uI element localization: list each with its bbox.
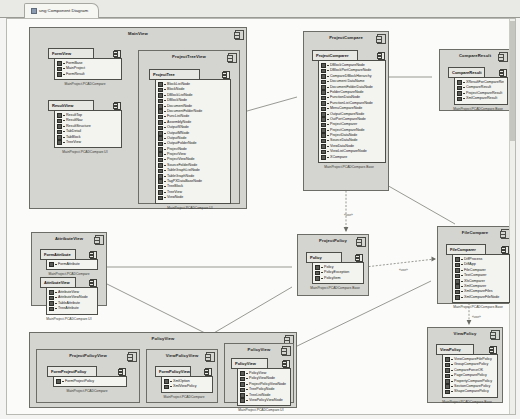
diagram-canvas[interactable]: MainViewFormViewFormBaseMainProjectFormR… [6,18,516,415]
interface-socket-icon [321,117,326,122]
interface-item-label: AttributeViewNode [58,295,88,299]
package-projecttreeview[interactable]: ProjectTreeViewProjectTreeBlockListNodeB… [138,50,240,204]
component-resultview[interactable]: ResultViewResultTopResultNavResultStruct… [48,100,122,155]
interface-socket-icon [158,136,163,141]
interface-item[interactable]: XmlCompareFileNode [455,295,506,300]
interface-socket-icon [321,128,326,133]
interface-socket-icon [321,74,326,79]
interface-item-label: TreeBlock [167,184,183,188]
component-formprojectpolicy[interactable]: FormProjectPolicyFormProjectPolicyMainPr… [47,366,127,394]
interface-socket-icon [321,63,326,68]
bullet-icon [461,297,463,298]
interface-item[interactable]: TreeView [57,140,118,145]
bullet-icon [327,157,329,158]
interface-item-label: PolicyViewNode [249,376,275,380]
interface-socket-icon [57,67,62,72]
interface-item[interactable]: ShapeComparePolicy [445,389,494,394]
interface-item-label: SourceDataNode [330,138,358,142]
component-filecomparer[interactable]: FileComparerDiffProcessDiffAppFileCompar… [446,244,510,310]
interface-item-label: AssemblyNode [167,120,191,124]
interface-item-label: CompareResult [466,85,491,89]
component-formattribute[interactable]: FormAttributeFormAttributeMainProject.PC… [40,249,98,277]
interface-socket-icon [158,88,163,93]
link-projectcompare-filecompare [385,184,455,224]
interface-item[interactable]: ViewNode [158,195,227,200]
tab-component-diagram[interactable]: ung Component Diagram [24,3,99,19]
component-projectcomparer[interactable]: ProjectComparerDBlockCompareNodeDBlockPo… [312,50,386,170]
interface-socket-icon [321,123,326,128]
component-attributeview-comp[interactable]: AttributeViewAttributeViewAttributeViewN… [40,277,98,322]
component-formpolicyview[interactable]: FormPolicyViewXmlOptionXmlViewPolicyMain… [155,366,213,400]
interface-item[interactable]: XmlViewPolicy [164,384,209,389]
bullet-icon [63,115,65,116]
interface-socket-icon [240,398,245,403]
interface-item[interactable]: XCompare [321,155,382,160]
component-namespace-label: MainProject.PCADCompare.Base [306,284,364,291]
interface-item-label: PropertyComparePolicy [454,379,492,383]
interface-item-label: FormBase [66,61,83,65]
interface-item-label: OutputFolderNode [167,141,197,145]
package-attributeview[interactable]: AttributeViewFormAttributeFormAttributeM… [31,232,107,306]
bullet-icon [461,281,463,282]
interface-item[interactable]: FormResult [57,72,118,77]
bullet-icon [327,135,329,136]
scrollbar-thumb[interactable] [510,21,515,141]
canvas-vertical-scrollbar[interactable] [509,19,515,414]
interface-item-label: TreeListNode [249,393,270,397]
interface-item[interactable]: PolicyItem [315,276,360,281]
package-stereotype-icon [128,352,137,362]
package-projectpolicy[interactable]: ProjectPolicyPolicyPolicyPolicyException… [297,234,369,296]
bullet-icon [327,108,329,109]
interface-item[interactable]: ViewPolicyViewNode [240,398,287,403]
component-projecttree[interactable]: ProjectTreeBlockListNodeBlockNodeDBlockL… [149,69,231,211]
package-policyview[interactable]: PolicyViewProjectPolicyViewFormProjectPo… [29,332,297,408]
package-projectcompare[interactable]: ProjectCompareProjectComparerDBlockCompa… [303,31,389,191]
bullet-icon [246,400,248,401]
interface-item-label: ProjectViewNode [167,157,195,161]
package-viewpolicy[interactable]: ViewPolicyViewPolicyViewCompareFilePolic… [427,327,503,403]
interface-item-label: Policy [324,265,334,269]
interface-item[interactable]: XmlCompareResult [457,96,504,101]
component-interface-list: FormAttribute [46,259,98,270]
interface-item[interactable]: TreeAttribute [49,306,94,311]
package-title: ProjectTreeView [139,51,239,61]
interface-item[interactable]: FormProjectPolicy [56,379,123,384]
bullet-icon [63,74,65,75]
component-policyview-comp[interactable]: PolicyViewPolicyViewPolicyViewNodeProjec… [231,358,291,413]
package-mainview[interactable]: MainViewFormViewFormBaseMainProjectFormR… [29,27,247,209]
package-projectpolicyview[interactable]: ProjectPolicyViewFormProjectPolicyFormPr… [36,349,140,403]
interface-item-label: TableGraphNode [167,174,194,178]
package-viewpolicyview[interactable]: ViewPolicyViewFormPolicyViewXmlOptionXml… [146,349,218,403]
interface-socket-icon [49,262,54,267]
bullet-icon [164,89,166,90]
component-compareresult-comp[interactable]: CompareResultXResultForCompareResultComp… [448,67,508,112]
bullet-icon [327,97,329,98]
component-namespace-label: MainProject.PCADCompare [47,387,127,394]
package-policyview-inner[interactable]: PolicyViewPolicyViewPolicyViewPolicyView… [224,343,294,403]
bullet-icon [63,63,65,64]
interface-socket-icon [57,61,62,66]
component-interface-list: AttributeViewAttributeViewNodeTableAttri… [46,287,98,315]
bullet-icon [321,278,323,279]
package-compareresult[interactable]: CompareResultCompareResultXResultForComp… [439,49,511,111]
component-policy[interactable]: PolicyPolicyPolicyExceptionPolicyItemMai… [306,252,364,291]
component-title: CompareResult [448,67,485,78]
component-formview[interactable]: FormViewFormBaseMainProjectFormResultMai… [48,48,122,87]
interface-item-label: ViewCompareFilePolicy [454,357,492,361]
interface-socket-icon [57,124,62,129]
interface-item-label: TableGraphListNode [167,168,200,172]
interface-socket-icon [158,147,163,152]
package-stereotype-icon [491,330,500,340]
component-viewpolicy-comp[interactable]: ViewPolicyViewCompareFilePolicyGroupComp… [436,344,498,405]
interface-item-label: ProjectComparer [330,122,357,126]
interface-item-label: ShapeComparePolicy [454,389,489,393]
package-filecompare[interactable]: FileCompareFileComparerDiffProcessDiffAp… [437,226,513,304]
component-interface-list: BlockListNodeBlockNodeDBlockListNodeDBlo… [155,79,231,204]
interface-item-label: OutputNode [167,136,186,140]
bullet-icon [327,124,329,125]
interface-item[interactable]: FormAttribute [49,262,94,267]
component-title: ProjectTree [149,69,200,80]
interface-item-label: PageComparePolicy [454,373,487,377]
bullet-icon [327,114,329,115]
interface-item-label: ProjectNode [167,147,187,151]
